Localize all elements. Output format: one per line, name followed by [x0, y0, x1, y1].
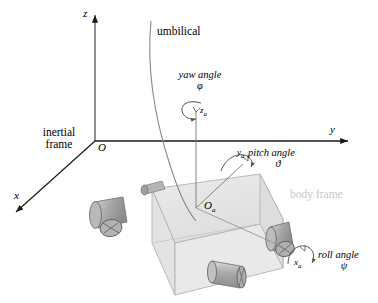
x-axis — [16, 141, 95, 212]
yaw-rotation-arrow — [182, 102, 201, 119]
body-frame-label: body frame — [290, 188, 343, 200]
umbilical-label: umbilical — [157, 25, 200, 37]
yaw-angle-label: yaw angle φ — [168, 69, 232, 91]
roll-angle-symbol: ψ — [318, 260, 370, 271]
y-axis-label: y — [330, 124, 335, 136]
x-axis-label: x — [14, 190, 19, 202]
inertial-frame-label: inertial frame — [28, 126, 90, 150]
roll-angle-name: roll angle — [318, 249, 376, 260]
thruster-front-left — [90, 197, 128, 238]
origin-label: O — [98, 142, 106, 154]
yaw-angle-name: yaw angle — [168, 69, 232, 80]
xa-axis-label: xa — [294, 258, 302, 270]
pitch-angle-label: pitch angle ϑ — [248, 147, 328, 169]
z-axis-label: z — [83, 8, 87, 20]
pitch-angle-symbol: ϑ — [248, 158, 308, 169]
roll-angle-label: roll angle ψ — [318, 249, 376, 271]
body-origin-label: Oa — [204, 200, 215, 215]
inertial-axes — [16, 15, 348, 212]
pitch-angle-name: pitch angle — [248, 147, 328, 158]
ya-axis-label: ya — [237, 148, 245, 160]
za-axis-label: za — [200, 106, 207, 118]
figure-canvas: inertial frame O z y x umbilical yaw ang… — [0, 0, 378, 303]
yaw-angle-symbol: φ — [168, 80, 232, 91]
